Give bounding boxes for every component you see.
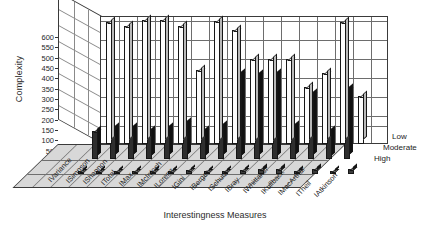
y-tick-250: 250 (41, 106, 54, 114)
bar-side-face (111, 17, 115, 140)
bar-side-face (151, 125, 155, 155)
gridline-left-wall-vertical (74, 1, 75, 128)
bar-high-IMax (150, 171, 156, 174)
x-label-IAtkinson: IAtkinson (312, 171, 339, 199)
gridline-vertical (281, 17, 282, 143)
bar-side-face (165, 14, 169, 140)
bar-side-face (147, 14, 151, 140)
bar-high-IBerger (222, 171, 228, 174)
floor-row-divider (27, 174, 314, 175)
gridline-vertical (173, 17, 174, 143)
floor-row-divider (42, 160, 329, 161)
bar-side-face (219, 15, 223, 140)
bar-low-IBerger (250, 59, 256, 145)
bar-side-face (201, 64, 205, 140)
bar-low-ITotal (160, 20, 166, 144)
bar-side-face (187, 117, 191, 155)
legend-item-moderate: Moderate (383, 142, 436, 153)
bar-side-face (313, 89, 317, 155)
bar-low-IKullback (322, 73, 328, 144)
bar-high-IKullback (294, 171, 300, 174)
bar-side-face (223, 120, 227, 155)
legend-item-low: Low (392, 131, 436, 142)
y-axis-tick-labels: 050100150200250300350400450500550600 (18, 38, 58, 162)
gridline-vertical (137, 17, 138, 143)
gridline-left-wall-vertical (88, 9, 89, 136)
bar-low-IGini (232, 30, 238, 144)
gridline-vertical (245, 17, 246, 143)
bar-side-face (237, 24, 241, 140)
bar-side-face (309, 81, 313, 140)
bar-side-face (291, 53, 295, 140)
gridline-vertical (353, 17, 354, 143)
bar-high-ILorenz (186, 170, 192, 174)
bar-high-IMcIntosh (168, 171, 174, 174)
y-tick-350: 350 (41, 86, 54, 94)
bar-side-face (241, 68, 245, 155)
bar-low-ILorenz (214, 21, 220, 145)
bar-side-face (169, 122, 173, 155)
bar-high-ITotal (132, 171, 138, 174)
bar-low-IMacArthur (340, 22, 346, 144)
y-tick-100: 100 (41, 137, 54, 145)
bar-side-face (331, 125, 335, 155)
plot-area (58, 16, 388, 166)
left-wall (58, 0, 102, 144)
bar-side-face (259, 70, 263, 155)
gridline-vertical (119, 17, 120, 143)
bar-high-IMacArthur (312, 169, 318, 174)
gridline-vertical (209, 17, 210, 143)
bar-side-face (115, 122, 119, 155)
bar-high-IBray (258, 169, 264, 174)
bar-side-face (205, 125, 209, 155)
bar-side-face (295, 120, 299, 155)
bar-side-face (97, 125, 101, 155)
bar-side-face (345, 17, 349, 140)
gridline-vertical (317, 17, 318, 143)
y-tick-550: 550 (41, 44, 54, 52)
y-tick-300: 300 (41, 96, 54, 104)
bar-low-IMax (178, 26, 184, 144)
bar-side-face (129, 21, 133, 140)
gridline-vertical (335, 17, 336, 143)
bar-side-face (183, 21, 187, 140)
y-tick-200: 200 (41, 117, 54, 125)
bar-low-ISimpson (124, 26, 130, 144)
gridline-vertical (263, 17, 264, 143)
y-tick-600: 600 (41, 34, 54, 42)
bar-high-IAtkinson (348, 169, 354, 174)
bar-side-face (277, 68, 281, 155)
bar-low-ITheil (358, 96, 364, 144)
bar-low-IWhittaker (304, 87, 310, 144)
bar-high-IVariance (78, 171, 84, 174)
bar-high-ITheil (330, 171, 336, 174)
y-tick-450: 450 (41, 65, 54, 73)
bar-high-ISchutz (240, 170, 246, 174)
legend: Low Moderate High (374, 131, 436, 164)
bar-low-IMcIntosh (196, 70, 202, 144)
x-axis-title: Interestingness Measures (120, 210, 310, 220)
bar-high-IShannon (114, 171, 120, 174)
chart-figure: Complexity Interestingness Measures 0501… (0, 0, 438, 240)
bar-side-face (255, 53, 259, 140)
bar-high-IGini (204, 171, 210, 174)
bar-side-face (327, 67, 331, 140)
bar-low-IShannon (142, 20, 148, 144)
legend-item-high: High (374, 153, 436, 164)
bar-side-face (133, 122, 137, 155)
gridline-vertical (155, 17, 156, 143)
bar-side-face (363, 90, 367, 140)
gridline-vertical (191, 17, 192, 143)
y-tick-150: 150 (41, 127, 54, 135)
bar-high-ISimpson (96, 171, 102, 174)
bar-low-IVariance (106, 22, 112, 144)
gridline-vertical (371, 17, 372, 143)
bar-moderate-IVariance (92, 131, 98, 160)
y-tick-500: 500 (41, 55, 54, 63)
bar-low-IBray (286, 59, 292, 145)
bar-side-face (349, 83, 353, 155)
bar-side-face (273, 53, 277, 140)
bar-high-IWhittaker (276, 169, 282, 174)
bar-low-ISchutz (268, 59, 274, 145)
y-tick-400: 400 (41, 75, 54, 83)
